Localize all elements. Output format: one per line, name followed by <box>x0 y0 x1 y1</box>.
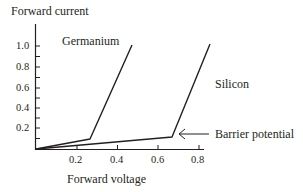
y-tick-label: 0.6 <box>16 83 29 93</box>
barrier-potential-label: Barrier potential <box>215 128 294 140</box>
x-ticks <box>77 145 199 150</box>
y-tick-label: 0.8 <box>16 62 29 72</box>
diode-iv-chart: Forward current Forward voltage Germaniu… <box>0 0 303 192</box>
y-major-ticks <box>36 46 41 128</box>
barrier-arrow-icon <box>179 129 209 139</box>
x-tick-label: 0.4 <box>110 155 123 165</box>
germanium-curve <box>36 45 132 149</box>
y-tick-label: 0.2 <box>16 123 29 133</box>
x-tick-label: 0.2 <box>69 155 82 165</box>
silicon-label: Silicon <box>215 78 249 90</box>
y-minor-ticks <box>36 57 41 139</box>
x-axis-title: Forward voltage <box>67 173 146 185</box>
y-tick-label: 0.4 <box>16 103 29 113</box>
x-tick-label: 0.8 <box>191 155 204 165</box>
x-tick-label: 0.6 <box>151 155 164 165</box>
silicon-curve <box>36 44 210 149</box>
y-axis-title: Forward current <box>11 5 89 17</box>
y-tick-label: 1.0 <box>16 41 29 51</box>
germanium-label: Germanium <box>62 35 119 47</box>
